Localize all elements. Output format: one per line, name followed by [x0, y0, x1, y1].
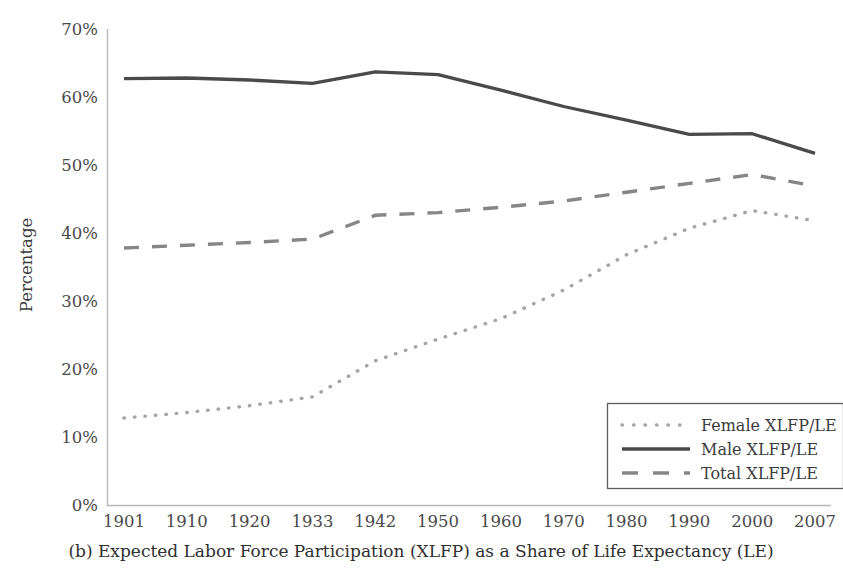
x-tick-label: 1933 [291, 512, 333, 531]
x-tick-label: 1980 [606, 512, 648, 531]
series-line-female [124, 211, 815, 418]
y-tick-label: 10% [61, 428, 98, 447]
x-tick-label: 1990 [668, 512, 710, 531]
chart-legend: Female XLFP/LE Male XLFP/LE Total XLFP/L… [608, 404, 843, 489]
y-tick-label: 0% [72, 496, 98, 515]
legend-label-female: Female XLFP/LE [701, 416, 837, 435]
y-tick-label: 60% [61, 88, 98, 107]
legend-label-total: Total XLFP/LE [701, 464, 818, 483]
x-tick-label: 2007 [794, 512, 836, 531]
y-axis-tick-labels: 0%10%20%30%40%50%60%70% [61, 20, 98, 515]
y-tick-label: 70% [61, 20, 98, 39]
figure-container: 0%10%20%30%40%50%60%70% Percentage 19011… [0, 0, 843, 574]
x-axis-tick-labels: 1901191019201933194219501960197019801990… [103, 512, 836, 531]
x-tick-label: 1970 [543, 512, 585, 531]
series-line-male [124, 72, 815, 154]
x-tick-label: 1942 [354, 512, 396, 531]
x-tick-label: 1901 [103, 512, 145, 531]
x-tick-label: 1910 [166, 512, 208, 531]
y-tick-label: 40% [61, 224, 98, 243]
x-tick-label: 1960 [480, 512, 522, 531]
figure-caption: (b) Expected Labor Force Participation (… [68, 541, 773, 561]
y-tick-label: 50% [61, 156, 98, 175]
y-axis-title: Percentage [17, 218, 36, 312]
legend-label-male: Male XLFP/LE [701, 440, 818, 459]
x-tick-label: 1920 [229, 512, 271, 531]
y-tick-label: 20% [61, 360, 98, 379]
series-line-total [124, 175, 815, 249]
line-chart: 0%10%20%30%40%50%60%70% Percentage 19011… [0, 0, 843, 574]
data-series-group [124, 72, 815, 418]
y-tick-label: 30% [61, 292, 98, 311]
x-tick-label: 1950 [417, 512, 459, 531]
x-tick-label: 2000 [731, 512, 773, 531]
